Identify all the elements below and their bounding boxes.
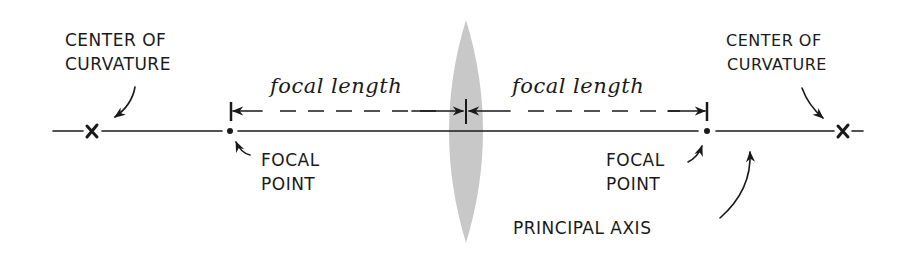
label-focal-point-right-1: FOCAL [606, 150, 665, 170]
arrow-to-focal-right [688, 146, 702, 162]
label-principal-axis: PRINCIPAL AXIS [513, 218, 651, 238]
label-center-left-2: CURVATURE [65, 54, 171, 74]
arrow-to-center-right [802, 88, 823, 118]
label-focal-point-left-2: POINT [261, 174, 315, 194]
focal-length-dimension-left [231, 102, 463, 121]
lens-diagram: CENTER OF CURVATURE CENTER OF CURVATURE … [0, 0, 907, 263]
label-focal-point-left-1: FOCAL [261, 150, 320, 170]
label-focal-length-right: focal length [510, 74, 644, 98]
label-focal-point-right-2: POINT [606, 174, 660, 194]
label-center-right-1: CENTER OF [726, 31, 822, 50]
center-of-curvature-right-marker [838, 125, 848, 137]
focal-length-dimension-right [469, 102, 707, 121]
label-center-right-2: CURVATURE [727, 55, 827, 74]
focal-point-right-dot [704, 128, 710, 134]
label-focal-length-left: focal length [268, 74, 402, 98]
arrow-to-focal-left [236, 142, 250, 155]
arrow-to-center-left [115, 87, 135, 117]
focal-point-left-dot [227, 128, 233, 134]
label-center-left-1: CENTER OF [65, 30, 166, 50]
center-of-curvature-left-marker [87, 125, 97, 137]
arrow-to-principal-axis [720, 152, 750, 218]
